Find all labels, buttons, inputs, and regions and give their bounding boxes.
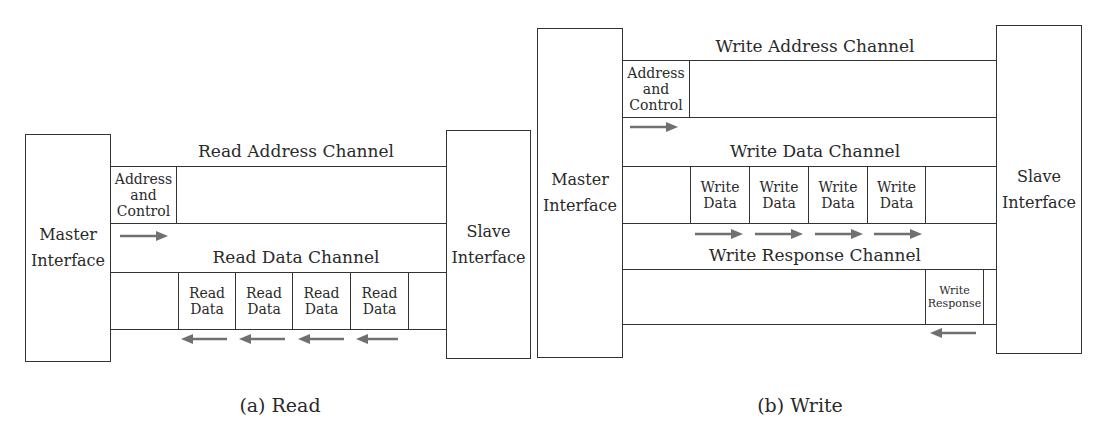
write-response-divider	[983, 270, 984, 324]
write-response-channel-bottom-line	[622, 324, 997, 325]
write-data-channel-bottom-line	[622, 223, 997, 224]
read-data-cell: Read Data	[293, 273, 350, 329]
write-master-interface: Master Interface	[537, 28, 623, 358]
read-data-cell: Read Data	[236, 273, 292, 329]
read-data-channel-bottom-line	[110, 329, 447, 330]
arrow-left-icon	[930, 327, 980, 339]
write-data-divider	[925, 167, 926, 223]
read-data-cell: Read Data	[351, 273, 408, 329]
read-data-cell: Read Data	[179, 273, 235, 329]
write-data-channel-title: Write Data Channel	[690, 141, 940, 161]
arrow-right-icon	[874, 228, 924, 240]
write-data-cell: Write Data	[750, 167, 808, 223]
arrow-left-icon	[356, 333, 406, 345]
read-master-interface: Master Interface	[25, 134, 111, 362]
write-address-control-cell: Address and Control	[623, 61, 689, 117]
write-addr-cell-divider	[689, 61, 690, 117]
write-response-cell: Write Response	[926, 270, 983, 324]
arrow-right-icon	[755, 228, 805, 240]
arrow-left-icon	[239, 333, 289, 345]
read-address-control-cell: Address and Control	[111, 167, 176, 223]
arrow-left-icon	[298, 333, 348, 345]
write-data-cell: Write Data	[691, 167, 749, 223]
arrow-right-icon	[815, 228, 865, 240]
read-data-divider	[408, 273, 409, 329]
read-address-channel-title: Read Address Channel	[176, 141, 416, 161]
write-address-channel-title: Write Address Channel	[690, 36, 940, 56]
read-slave-interface: Slave Interface	[446, 130, 531, 359]
write-slave-interface: Slave Interface	[996, 25, 1082, 354]
write-address-channel-bottom-line	[622, 117, 997, 118]
write-response-channel-title: Write Response Channel	[690, 245, 940, 265]
write-data-cell: Write Data	[809, 167, 867, 223]
read-addr-cell-divider	[176, 167, 177, 223]
arrow-left-icon	[181, 333, 231, 345]
read-caption: (a) Read	[220, 394, 340, 416]
write-data-cell: Write Data	[868, 167, 925, 223]
read-address-channel-bottom-line	[110, 223, 447, 224]
write-caption: (b) Write	[730, 394, 870, 416]
read-data-channel-title: Read Data Channel	[176, 247, 416, 267]
arrow-right-icon	[695, 228, 745, 240]
arrow-right-icon	[630, 121, 680, 133]
arrow-right-icon	[120, 230, 170, 242]
